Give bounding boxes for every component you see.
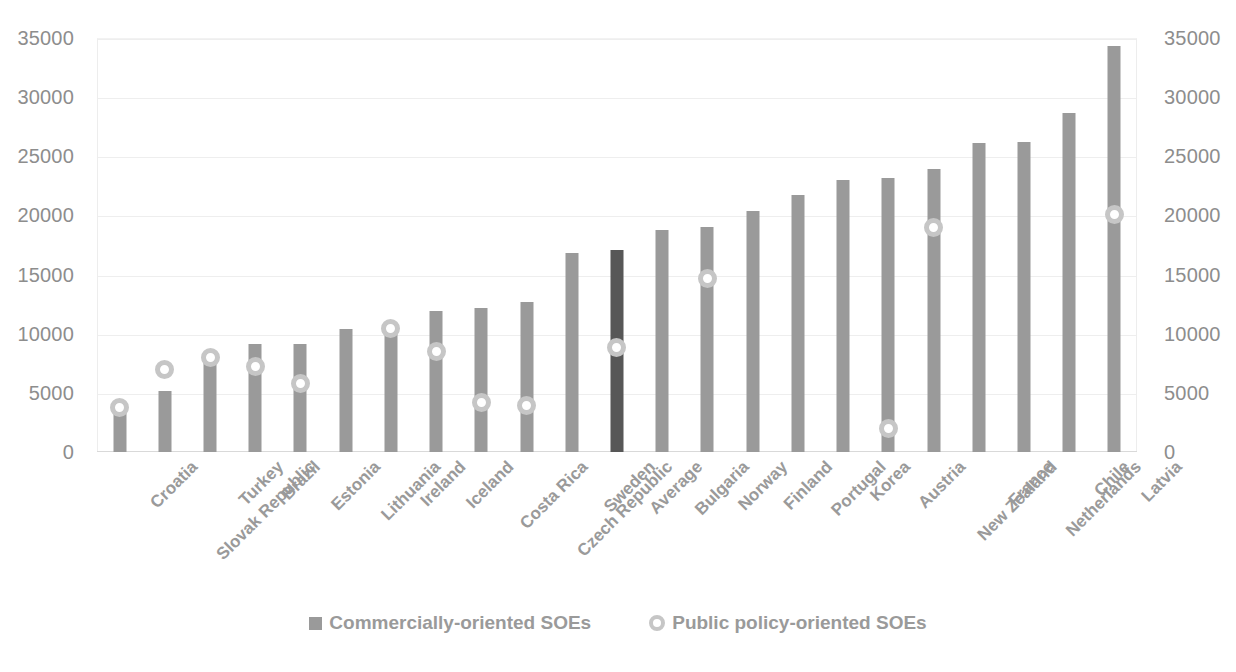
legend-label-2: Public policy-oriented SOEs (672, 612, 926, 634)
soe-employment-bar-chart: 05000100001500020000250003000035000 Croa… (0, 0, 1236, 672)
y-axis-right: 05000100001500020000250003000035000 (1152, 0, 1236, 672)
bar-group-lithuania[interactable] (323, 38, 368, 452)
y-tick-right-5000: 5000 (1164, 383, 1209, 403)
marker-ireland[interactable] (381, 319, 400, 338)
bar-ireland[interactable] (384, 328, 397, 452)
bar-group-portugal[interactable] (775, 38, 820, 452)
bar-group-latvia[interactable] (1092, 38, 1137, 452)
bar-austria[interactable] (882, 178, 895, 452)
y-tick-left-5000: 5000 (29, 383, 74, 403)
bar-latvia[interactable] (1108, 46, 1121, 452)
bar-lithuania[interactable] (339, 329, 352, 452)
bar-finland[interactable] (746, 211, 759, 452)
marker-turkey[interactable] (201, 348, 220, 367)
bar-group-chile[interactable] (1047, 38, 1092, 452)
legend-item-2[interactable]: Public policy-oriented SOEs (649, 612, 926, 634)
bar-france[interactable] (972, 143, 985, 452)
bar-group-slovak-republic[interactable] (142, 38, 187, 452)
marker-new-zealand[interactable] (924, 218, 943, 237)
bar-croatia[interactable] (113, 411, 126, 452)
marker-czech-republic[interactable] (517, 396, 536, 415)
bars-layer (97, 38, 1137, 452)
bar-group-costa-rica[interactable] (459, 38, 504, 452)
bar-group-new-zealand[interactable] (911, 38, 956, 452)
bar-slovak-republic[interactable] (158, 391, 171, 453)
bar-group-finland[interactable] (730, 38, 775, 452)
bar-group-brazil[interactable] (233, 38, 278, 452)
bar-chile[interactable] (1063, 113, 1076, 452)
bar-group-average[interactable] (594, 38, 639, 452)
bar-group-ireland[interactable] (368, 38, 413, 452)
marker-croatia[interactable] (110, 398, 129, 417)
marker-average[interactable] (607, 338, 626, 357)
bar-group-korea[interactable] (820, 38, 865, 452)
y-tick-left-15000: 15000 (17, 265, 74, 285)
y-tick-right-25000: 25000 (1164, 146, 1221, 166)
bar-new-zealand[interactable] (927, 169, 940, 452)
category-label-iceland: Iceland (463, 458, 516, 511)
marker-costa-rica[interactable] (472, 393, 491, 412)
y-axis-left: 05000100001500020000250003000035000 (0, 0, 84, 672)
bar-portugal[interactable] (791, 195, 804, 452)
category-axis-labels: CroatiaSlovak RepublicTurkeyBrazilEstoni… (97, 452, 1137, 602)
legend-item-1[interactable]: Commercially-oriented SOEs (309, 612, 591, 634)
legend-square-icon (309, 617, 322, 630)
bar-group-czech-republic[interactable] (504, 38, 549, 452)
bar-costa-rica[interactable] (475, 308, 488, 452)
bar-sweden[interactable] (565, 253, 578, 452)
marker-iceland[interactable] (427, 342, 446, 361)
y-tick-left-35000: 35000 (17, 28, 74, 48)
bar-group-estonia[interactable] (278, 38, 323, 452)
category-label-croatia: Croatia (147, 458, 200, 511)
bar-group-iceland[interactable] (414, 38, 459, 452)
marker-latvia[interactable] (1105, 205, 1124, 224)
category-label-finland: Finland (780, 458, 835, 513)
y-tick-left-25000: 25000 (17, 146, 74, 166)
y-tick-right-20000: 20000 (1164, 205, 1221, 225)
y-tick-left-0: 0 (63, 442, 74, 462)
bar-bulgaria[interactable] (656, 230, 669, 452)
bar-korea[interactable] (837, 180, 850, 452)
legend-circle-icon (649, 615, 665, 631)
marker-estonia[interactable] (291, 374, 310, 393)
y-tick-left-30000: 30000 (17, 87, 74, 107)
bar-norway[interactable] (701, 227, 714, 452)
y-tick-left-20000: 20000 (17, 205, 74, 225)
category-label-france: France (1005, 458, 1056, 509)
y-tick-left-10000: 10000 (17, 324, 74, 344)
bar-netherlands[interactable] (1017, 142, 1030, 452)
bar-turkey[interactable] (204, 357, 217, 452)
marker-austria[interactable] (879, 419, 898, 438)
bar-group-sweden[interactable] (549, 38, 594, 452)
bar-group-austria[interactable] (866, 38, 911, 452)
marker-brazil[interactable] (246, 357, 265, 376)
category-label-estonia: Estonia (328, 458, 383, 513)
y-tick-right-30000: 30000 (1164, 87, 1221, 107)
y-tick-right-0: 0 (1164, 442, 1175, 462)
category-label-austria: Austria (915, 458, 968, 511)
bar-group-netherlands[interactable] (1001, 38, 1046, 452)
bar-group-turkey[interactable] (187, 38, 232, 452)
y-tick-right-10000: 10000 (1164, 324, 1221, 344)
category-label-brazil: Brazil (279, 458, 324, 503)
marker-norway[interactable] (698, 269, 717, 288)
bar-iceland[interactable] (430, 311, 443, 452)
bar-group-france[interactable] (956, 38, 1001, 452)
bar-group-norway[interactable] (685, 38, 730, 452)
bar-group-croatia[interactable] (97, 38, 142, 452)
y-tick-right-35000: 35000 (1164, 28, 1221, 48)
y-tick-right-15000: 15000 (1164, 265, 1221, 285)
category-label-costa-rica: Costa Rica (517, 458, 591, 532)
legend-label-1: Commercially-oriented SOEs (329, 612, 591, 634)
bar-group-bulgaria[interactable] (640, 38, 685, 452)
marker-slovak-republic[interactable] (155, 360, 174, 379)
bar-czech-republic[interactable] (520, 302, 533, 452)
bar-estonia[interactable] (294, 344, 307, 452)
chart-legend: Commercially-oriented SOEsPublic policy-… (0, 612, 1236, 634)
